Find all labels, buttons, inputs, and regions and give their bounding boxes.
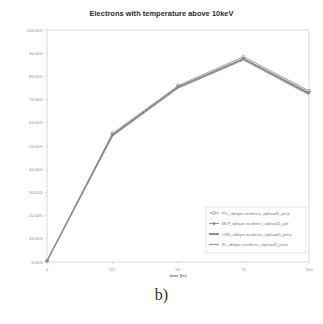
y-tick-label: 40.00% (29, 167, 43, 172)
legend-label: MLP_oblique incidence_alpha=45_pol: (222, 221, 289, 226)
y-tick-label: 20.00% (29, 213, 43, 218)
y-tick-label: 90.00% (29, 51, 43, 56)
figure-panel: Electrons with temperature above 10keV 0… (0, 0, 323, 284)
legend-marker (213, 212, 216, 215)
y-tick-label: 100.00% (27, 28, 44, 33)
y-tick-label: 80.00% (29, 74, 43, 79)
y-tick-label: 0.00% (31, 260, 43, 265)
x-tick-label: 75 (241, 267, 246, 272)
x-tick-label: 100 (305, 267, 313, 272)
x-tick-label: 0 (46, 267, 49, 272)
figure-caption: b) (0, 286, 323, 304)
y-tick-label: 70.00% (29, 97, 43, 102)
legend-label: FL_oblique incidence_alpha=45_pol:p (222, 242, 288, 247)
x-axis: 0255075100time (fs) (46, 262, 313, 278)
y-tick-label: 60.00% (29, 120, 43, 125)
y-tick-label: 50.00% (29, 144, 43, 149)
y-axis: 0.00%10.00%20.00%30.00%40.00%50.00%60.00… (27, 28, 47, 265)
y-tick-label: 30.00% (29, 190, 43, 195)
x-tick-label: 50 (176, 267, 181, 272)
x-tick-label: 25 (110, 267, 115, 272)
chart-legend: PIC_oblique incidence_alpha=45_pol:pMLP_… (206, 207, 306, 253)
legend-label: PIC_oblique incidence_alpha=45_pol:p (222, 211, 290, 216)
legend-label: CNN_oblique incidence_alpha=45_pol:p (222, 232, 292, 237)
y-tick-label: 10.00% (29, 236, 43, 241)
chart-plot-area: 0.00%10.00%20.00%30.00%40.00%50.00%60.00… (0, 0, 323, 284)
x-axis-title: time (fs) (170, 273, 187, 278)
